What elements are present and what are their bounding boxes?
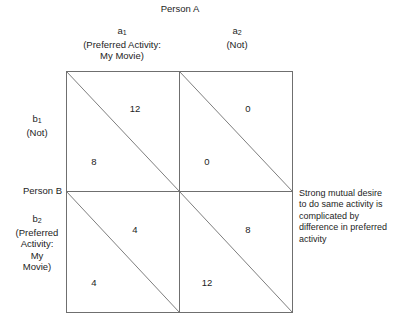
cell-a1-b2-diagonal	[67, 192, 180, 313]
row-header-b1: b1 (Not)	[8, 113, 66, 138]
cell-a1-b2-lower-left-payoff: 4	[84, 277, 104, 288]
cell-a2-b2-lower-left-payoff: 12	[197, 277, 217, 288]
row-header-b2-subscript: 2	[38, 217, 42, 224]
cell-a1-b1-upper-right-payoff: 12	[125, 103, 145, 114]
person-a-title: Person A	[0, 3, 360, 15]
row-header-b1-symbol: b1	[8, 113, 66, 127]
cell-a2-b2-diagonal	[180, 192, 293, 313]
row-header-b2-line4: Movie)	[5, 261, 69, 273]
row-header-b1-line1: (Not)	[8, 127, 66, 139]
row-header-b2: b2 (Preferred Activity: My Movie)	[5, 213, 69, 273]
cell-a1-b1-diagonal	[67, 72, 180, 192]
column-header-a2-symbol: a2	[187, 25, 287, 39]
column-header-a1: a1 (Preferred Activity: My Movie)	[42, 25, 202, 62]
annotation-note: Strong mutual desire to do same activity…	[299, 188, 403, 245]
payoff-matrix: 12 8 0 0 4 4 8 12	[66, 71, 293, 313]
row-header-b1-subscript: 1	[38, 117, 42, 124]
row-header-b2-line2: Activity:	[5, 238, 69, 250]
row-header-b2-line3: My	[5, 250, 69, 262]
column-header-a1-subscript: 1	[123, 29, 127, 36]
cell-a2-b1-lower-left-payoff: 0	[197, 156, 217, 167]
cell-a1-b2-upper-right-payoff: 4	[125, 224, 145, 235]
cell-a2-b1-diagonal	[180, 72, 293, 192]
column-header-a2-line1: (Not)	[187, 39, 287, 51]
row-header-b2-line1: (Preferred	[5, 227, 69, 239]
annotation-line-3: complicated by	[299, 211, 403, 222]
column-header-a1-line2: My Movie)	[42, 50, 202, 62]
cell-a1-b1-lower-left-payoff: 8	[84, 156, 104, 167]
person-b-title: Person B	[0, 185, 62, 197]
annotation-line-1: Strong mutual desire	[299, 188, 403, 199]
annotation-line-4: difference in preferred	[299, 222, 403, 233]
column-header-a1-line1: (Preferred Activity:	[42, 39, 202, 51]
row-header-b2-symbol: b2	[5, 213, 69, 227]
annotation-line-5: activity	[299, 234, 403, 245]
column-header-a1-symbol: a1	[42, 25, 202, 39]
cell-a2-b1-upper-right-payoff: 0	[238, 103, 258, 114]
column-header-a2-subscript: 2	[238, 29, 242, 36]
annotation-line-2: to do same activity is	[299, 199, 403, 210]
column-header-a2: a2 (Not)	[187, 25, 287, 50]
cell-a2-b2-upper-right-payoff: 8	[238, 224, 258, 235]
